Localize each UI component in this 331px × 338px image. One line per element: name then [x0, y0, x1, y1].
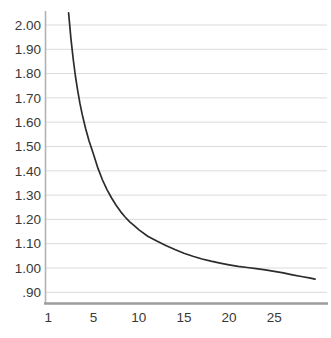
x-tick-label: 15 — [176, 310, 191, 325]
y-tick-label: 1.50 — [15, 139, 41, 154]
y-tick-label: 1.60 — [15, 115, 41, 130]
y-tick-label: 1.80 — [15, 66, 41, 81]
y-tick-label: 1.20 — [15, 212, 41, 227]
x-tick-label: 1 — [45, 310, 53, 325]
x-tick-label: 20 — [222, 310, 237, 325]
gridlines — [46, 25, 328, 292]
y-axis-labels: 2.001.901.801.701.601.501.401.301.201.10… — [15, 18, 41, 300]
x-tick-label: 5 — [90, 310, 98, 325]
y-tick-label: 1.10 — [15, 236, 41, 251]
y-tick-label: .90 — [22, 285, 41, 300]
y-tick-label: 1.40 — [15, 164, 41, 179]
x-axis-labels: 1510152025 — [45, 310, 282, 325]
y-tick-label: 1.70 — [15, 91, 41, 106]
x-tick-label: 25 — [267, 310, 282, 325]
y-tick-label: 1.00 — [15, 261, 41, 276]
line-chart: 2.001.901.801.701.601.501.401.301.201.10… — [0, 0, 331, 338]
y-tick-label: 2.00 — [15, 18, 41, 33]
chart-figure: 2.001.901.801.701.601.501.401.301.201.10… — [0, 0, 331, 338]
y-tick-label: 1.90 — [15, 42, 41, 57]
y-tick-label: 1.30 — [15, 188, 41, 203]
x-tick-label: 10 — [131, 310, 146, 325]
